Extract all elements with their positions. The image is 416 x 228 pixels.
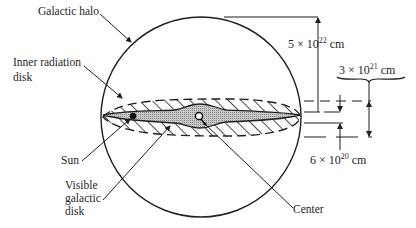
label-visible-disk-3: disk — [65, 205, 84, 218]
label-visible-disk-1: Visible — [65, 179, 98, 192]
label-sun: Sun — [61, 154, 79, 167]
label-inner-radiation-disk-1: Inner radiation — [13, 56, 81, 69]
label-center: Center — [293, 203, 324, 216]
dim-halo-radius: 5 × 1022 cm — [288, 36, 344, 52]
label-inner-radiation-disk-2: disk — [13, 71, 32, 84]
halo-leader — [100, 14, 131, 42]
galaxy-diagram — [0, 0, 416, 228]
center-marker — [195, 112, 202, 119]
center-leader — [205, 124, 293, 208]
dim-radiation-thickness: 3 × 1021 cm — [339, 62, 395, 78]
visible-disk-leader — [103, 126, 170, 200]
sun-marker — [130, 113, 137, 120]
sun-leader — [82, 119, 130, 161]
radiation-disk-leader — [84, 66, 122, 98]
label-visible-disk-2: galactic — [65, 192, 101, 205]
label-galactic-halo: Galactic halo — [38, 5, 99, 18]
dim-visible-thickness: 6 × 1020 cm — [310, 152, 366, 168]
